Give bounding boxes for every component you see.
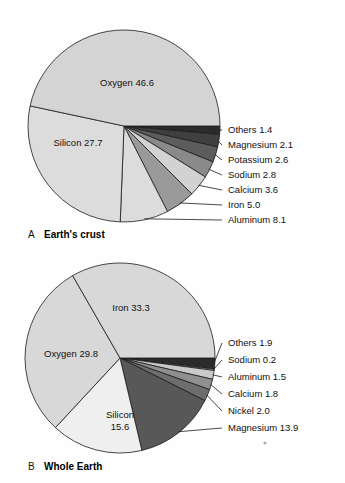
- leader-line-magnesium: [178, 428, 222, 432]
- callout-label-calcium: Calcium 3.6: [228, 184, 278, 195]
- caption-text-b: Whole Earth: [44, 461, 102, 472]
- callout-label-magnesium: Magnesium 13.9: [228, 422, 298, 433]
- print-speck: [263, 441, 266, 444]
- callout-label-magnesium: Magnesium 2.1: [228, 139, 293, 150]
- slice-label-silicon: Silicon: [106, 409, 134, 420]
- caption-text-a: Earth's crust: [44, 229, 105, 240]
- leader-line-calcium: [198, 185, 222, 190]
- callout-label-iron: Iron 5.0: [228, 199, 260, 210]
- callout-label-aluminum: Aluminum 1.5: [228, 371, 286, 382]
- callout-label-aluminum: Aluminum 8.1: [228, 214, 286, 225]
- slice-label-silicon: Silicon 27.7: [53, 137, 102, 148]
- leader-line-calcium: [210, 384, 222, 394]
- slice-label-silicon-value: 15.6: [111, 421, 130, 432]
- callout-label-potassium: Potassium 2.6: [228, 154, 288, 165]
- callout-label-others: Others 1.9: [228, 337, 272, 348]
- leader-line-nickel: [207, 395, 223, 411]
- figure-page: Oxygen 46.6Silicon 27.7Others 1.4Magnesi…: [0, 0, 345, 483]
- slice-label-iron: Iron 33.3: [112, 302, 150, 313]
- callout-label-others: Others 1.4: [228, 124, 272, 135]
- caption-letter-b: B: [28, 461, 35, 472]
- leader-line-aluminum: [144, 219, 222, 220]
- slice-label-oxygen: Oxygen 46.6: [100, 77, 154, 88]
- callout-label-sodium: Sodium 2.8: [228, 169, 276, 180]
- leader-line-sodium: [209, 169, 222, 175]
- caption-letter-a: A: [28, 229, 35, 240]
- callout-label-nickel: Nickel 2.0: [228, 405, 270, 416]
- leader-line-potassium: [215, 154, 222, 160]
- pie-figure: Oxygen 46.6Silicon 27.7Others 1.4Magnesi…: [0, 0, 345, 483]
- callout-label-calcium: Calcium 1.8: [228, 388, 278, 399]
- callout-label-sodium: Sodium 0.2: [228, 354, 276, 365]
- leader-line-aluminum: [213, 375, 223, 377]
- earths-crust-pie: [28, 30, 220, 222]
- slice-label-oxygen: Oxygen 29.8: [44, 348, 98, 359]
- leader-line-iron: [180, 203, 222, 205]
